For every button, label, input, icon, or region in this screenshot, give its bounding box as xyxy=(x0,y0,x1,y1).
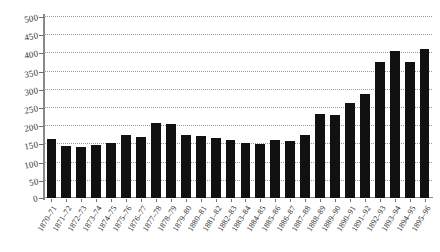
x-axis-tick xyxy=(275,199,276,202)
bar[interactable] xyxy=(76,147,86,198)
bar[interactable] xyxy=(106,143,116,198)
x-axis-tick xyxy=(320,199,321,202)
y-axis-tick-label: 250 xyxy=(23,103,39,116)
bar-series xyxy=(44,16,432,198)
bar-slot xyxy=(208,16,223,198)
x-axis-tick xyxy=(290,199,291,202)
x-axis-tick xyxy=(201,199,202,202)
bar-slot xyxy=(268,16,283,198)
bar-slot xyxy=(298,16,313,198)
bar[interactable] xyxy=(196,136,206,198)
x-axis-tick xyxy=(335,199,336,202)
bar-slot xyxy=(253,16,268,198)
bar-slot xyxy=(59,16,74,198)
x-axis-tick xyxy=(51,199,52,202)
bar-slot xyxy=(193,16,208,198)
bar-slot xyxy=(223,16,238,198)
bar-slot xyxy=(178,16,193,198)
bar-slot xyxy=(357,16,372,198)
bar[interactable] xyxy=(255,144,265,198)
bar[interactable] xyxy=(390,51,400,198)
bar[interactable] xyxy=(375,62,385,199)
bar[interactable] xyxy=(345,103,355,198)
x-axis-tick xyxy=(425,199,426,202)
x-axis-tick xyxy=(231,199,232,202)
bar-slot xyxy=(328,16,343,198)
bar[interactable] xyxy=(91,145,101,198)
x-axis-tick-labels: 1870–711871–721872–731873–741874–751875–… xyxy=(44,199,432,251)
bar[interactable] xyxy=(47,139,57,198)
bar[interactable] xyxy=(136,137,146,198)
x-axis-tick xyxy=(171,199,172,202)
bar[interactable] xyxy=(270,140,280,198)
bar[interactable] xyxy=(420,49,430,198)
y-axis-tick-label: 0 xyxy=(32,193,39,204)
bar[interactable] xyxy=(61,146,71,198)
x-axis-tick xyxy=(350,199,351,202)
bar[interactable] xyxy=(315,114,325,198)
y-axis-tick-label: 450 xyxy=(23,30,39,43)
bar-slot xyxy=(89,16,104,198)
bar-slot xyxy=(372,16,387,198)
y-axis-tick-label: 300 xyxy=(23,85,39,98)
x-axis-tick xyxy=(81,199,82,202)
bar-slot xyxy=(417,16,432,198)
bar-slot xyxy=(44,16,59,198)
x-axis-tick xyxy=(395,199,396,202)
x-axis-tick xyxy=(216,199,217,202)
bar-slot xyxy=(313,16,328,198)
y-axis-tick-label: 500 xyxy=(23,12,39,25)
bar-slot xyxy=(148,16,163,198)
bar[interactable] xyxy=(330,115,340,198)
x-axis-tick xyxy=(365,199,366,202)
bar[interactable] xyxy=(300,135,310,198)
x-axis-tick xyxy=(305,199,306,202)
bar[interactable] xyxy=(151,123,161,198)
bar[interactable] xyxy=(360,94,370,198)
x-axis-tick xyxy=(126,199,127,202)
x-axis-tick xyxy=(260,199,261,202)
x-axis-tick xyxy=(141,199,142,202)
bar-slot xyxy=(104,16,119,198)
x-tick-slot: 1895–96 xyxy=(417,199,432,251)
bar-chart: 050100150200250300350400450500 1870–7118… xyxy=(0,0,440,252)
bar[interactable] xyxy=(226,140,236,198)
bar-slot xyxy=(283,16,298,198)
bar[interactable] xyxy=(121,135,131,198)
y-axis-tick-label: 100 xyxy=(23,158,39,171)
x-axis-tick xyxy=(156,199,157,202)
y-axis-tick-label: 400 xyxy=(23,48,39,61)
bar[interactable] xyxy=(181,135,191,198)
bar-slot xyxy=(119,16,134,198)
bar-slot xyxy=(387,16,402,198)
bar-slot xyxy=(238,16,253,198)
y-axis-tick-label: 350 xyxy=(23,67,39,80)
x-axis-tick xyxy=(186,199,187,202)
y-axis-tick-label: 50 xyxy=(28,176,39,188)
x-axis-tick xyxy=(66,199,67,202)
bar-slot xyxy=(402,16,417,198)
bar[interactable] xyxy=(211,138,221,198)
plot-area: 050100150200250300350400450500 xyxy=(44,16,432,198)
bar-slot xyxy=(342,16,357,198)
x-axis-tick xyxy=(96,199,97,202)
bar-slot xyxy=(163,16,178,198)
x-axis-tick xyxy=(111,199,112,202)
x-axis-tick xyxy=(245,199,246,202)
y-axis-tick-label: 200 xyxy=(23,121,39,134)
bar[interactable] xyxy=(241,143,251,198)
x-axis-tick xyxy=(380,199,381,202)
y-axis-tick-label: 150 xyxy=(23,139,39,152)
bar[interactable] xyxy=(285,141,295,199)
bar[interactable] xyxy=(166,124,176,198)
bar-slot xyxy=(74,16,89,198)
bar-slot xyxy=(134,16,149,198)
x-axis-tick xyxy=(410,199,411,202)
bar[interactable] xyxy=(405,62,415,199)
